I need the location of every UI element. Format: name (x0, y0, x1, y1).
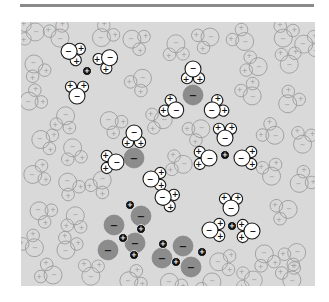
water-molecule: −++ (199, 92, 232, 125)
svg-text:+: + (21, 22, 27, 28)
svg-text:+: + (45, 26, 51, 34)
svg-text:+: + (285, 86, 291, 94)
svg-text:+: + (75, 239, 81, 247)
svg-text:+: + (293, 48, 299, 56)
svg-text:+: + (160, 240, 166, 248)
svg-text:+: + (30, 74, 36, 82)
svg-text:+: + (258, 163, 264, 171)
svg-text:+: + (239, 268, 245, 276)
svg-text:+: + (79, 154, 85, 162)
svg-text:+: + (272, 201, 278, 209)
water-molecule: −++ (237, 219, 260, 242)
svg-text:+: + (51, 131, 57, 139)
svg-text:+: + (127, 201, 133, 209)
water-molecule: −++ (181, 61, 204, 84)
svg-text:+: + (234, 193, 241, 202)
svg-text:+: + (52, 121, 58, 129)
svg-text:+: + (78, 44, 85, 53)
cation: + (119, 234, 128, 243)
svg-text:+: + (78, 183, 84, 191)
svg-text:+: + (184, 125, 190, 133)
svg-text:−: − (70, 143, 76, 151)
svg-text:−: − (29, 171, 35, 179)
svg-text:+: + (94, 55, 101, 64)
svg-text:+: + (272, 259, 278, 267)
background-water-molecule: −++ (21, 50, 53, 85)
anion: − (98, 240, 118, 260)
svg-text:+: + (170, 151, 176, 159)
background-water-molecule: −++ (268, 22, 301, 51)
svg-text:−: − (249, 227, 256, 236)
water-molecule: −++ (213, 123, 236, 146)
svg-text:+: + (249, 147, 256, 156)
svg-text:−: − (140, 74, 146, 82)
cation: + (159, 240, 168, 249)
svg-text:+: + (238, 24, 244, 32)
svg-text:+: + (48, 146, 54, 154)
svg-text:+: + (63, 222, 69, 230)
svg-text:−: − (100, 175, 106, 183)
svg-text:+: + (273, 159, 279, 167)
background-water-molecule: −++ (165, 149, 194, 179)
svg-text:+: + (192, 138, 198, 146)
svg-text:−: − (32, 244, 38, 252)
svg-text:−: − (242, 38, 248, 46)
svg-text:+: + (102, 151, 109, 160)
svg-text:−: − (74, 92, 81, 101)
background-water-molecule: −++ (25, 195, 60, 230)
svg-text:+: + (217, 219, 224, 228)
background-water-molecule: −++ (232, 75, 268, 110)
svg-text:−: − (33, 28, 39, 36)
anion: − (183, 85, 203, 105)
svg-text:+: + (36, 273, 42, 281)
svg-text:+: + (312, 32, 315, 40)
svg-text:+: + (143, 32, 149, 40)
svg-text:−: − (37, 135, 43, 143)
svg-text:−: − (215, 258, 221, 266)
svg-text:+: + (181, 51, 187, 59)
background-water-molecule: −++ (189, 22, 223, 56)
svg-text:+: + (242, 67, 248, 75)
background-water-molecule: −++ (116, 263, 149, 286)
svg-text:−: − (147, 175, 154, 184)
svg-text:+: + (42, 219, 48, 227)
svg-text:−: − (238, 154, 245, 163)
water-molecule: −++ (202, 218, 225, 241)
svg-text:−: − (208, 106, 215, 115)
svg-text:−: − (25, 98, 31, 106)
svg-text:+: + (65, 192, 71, 200)
svg-text:+: + (277, 49, 283, 57)
svg-text:+: + (183, 75, 190, 84)
background-water-molecule: −++ (272, 83, 308, 119)
svg-text:−: − (173, 39, 179, 47)
svg-text:+: + (258, 131, 264, 139)
cation: + (130, 251, 139, 260)
svg-text:+: + (309, 130, 315, 138)
svg-text:−: − (299, 141, 305, 149)
top-rule (20, 4, 314, 7)
svg-text:−: − (181, 160, 187, 168)
svg-text:+: + (79, 224, 85, 232)
svg-text:+: + (238, 220, 245, 229)
svg-text:−: − (300, 40, 306, 48)
svg-text:+: + (102, 164, 109, 173)
svg-text:+: + (59, 22, 65, 28)
svg-text:−: − (72, 211, 78, 219)
svg-text:+: + (215, 123, 222, 132)
solution-panel: −++−++−++−++−++−++−++−++−++−++−++−++−++−… (21, 22, 315, 286)
svg-text:+: + (138, 88, 144, 96)
svg-text:−: − (187, 262, 195, 273)
svg-text:+: + (250, 78, 256, 86)
svg-text:+: + (120, 118, 126, 126)
anion: − (124, 148, 144, 168)
svg-text:+: + (43, 176, 49, 184)
svg-text:−: − (110, 220, 118, 231)
svg-text:−: − (206, 154, 213, 163)
svg-text:−: − (289, 277, 295, 285)
background-water-molecule: −++ (21, 227, 50, 263)
svg-text:+: + (217, 232, 224, 241)
hydrated-anion: −++−++−++− (156, 61, 232, 125)
svg-text:−: − (228, 204, 235, 213)
svg-text:+: + (195, 160, 202, 169)
svg-text:+: + (166, 52, 172, 60)
